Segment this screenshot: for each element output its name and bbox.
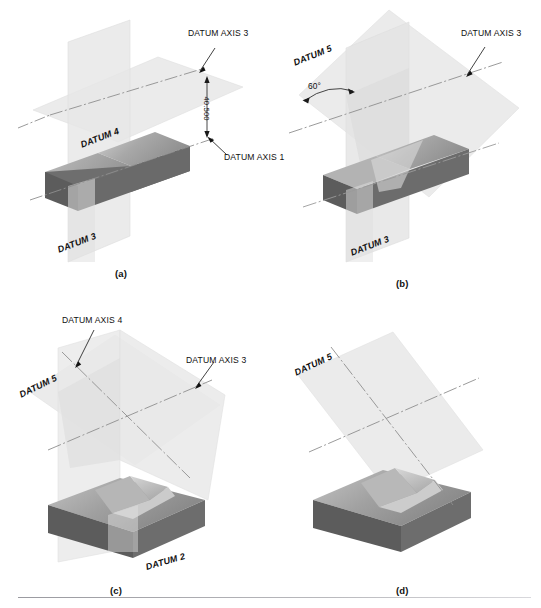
panel-c-graphic (0, 300, 271, 600)
dimension-angle-60: 60° (308, 81, 321, 91)
callout-datum-axis-3: DATUM AXIS 3 (186, 355, 246, 365)
datum-plane-4 (33, 57, 243, 142)
panel-c: DATUM AXIS 4 DATUM AXIS 3 DATUM 5 DATUM … (0, 300, 271, 600)
figure-datum-planes: DATUM AXIS 3 DATUM AXIS 1 40.500 DATUM 4… (0, 0, 541, 608)
panel-d: DATUM 5 (d) (271, 300, 541, 600)
panel-label-b: (b) (396, 278, 409, 289)
leader-datum-axis-3 (466, 47, 485, 77)
panel-b-graphic (271, 0, 541, 300)
panel-d-graphic (271, 300, 541, 600)
footer-rule (18, 597, 531, 598)
panel-label-c: (c) (110, 585, 122, 596)
panel-b: DATUM AXIS 3 DATUM 5 DATUM 3 60° (b) (271, 0, 541, 300)
dimension-vertical-offset: 40.500 (202, 97, 211, 121)
callout-datum-axis-3: DATUM AXIS 3 (461, 28, 521, 38)
panel-a: DATUM AXIS 3 DATUM AXIS 1 40.500 DATUM 4… (0, 0, 271, 300)
callout-datum-axis-4: DATUM AXIS 4 (62, 315, 122, 325)
callout-datum-axis-3: DATUM AXIS 3 (188, 28, 248, 38)
panel-a-graphic (0, 0, 271, 300)
leader-datum-axis-3 (199, 48, 215, 73)
panel-label-a: (a) (115, 268, 127, 279)
panel-label-d: (d) (396, 585, 409, 596)
